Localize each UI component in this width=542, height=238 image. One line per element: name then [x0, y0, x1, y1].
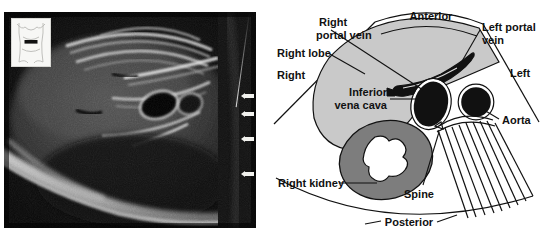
label-left-portal-vein-line2: vein: [482, 34, 504, 46]
ultrasound-panel: [4, 12, 256, 228]
label-inferior-vena-cava-line1: Inferior: [349, 86, 388, 98]
depth-tick-2: [245, 112, 254, 116]
label-orientation-left: Left: [510, 67, 531, 79]
aorta-shape: [458, 84, 494, 120]
label-right-portal-vein-line1: Right: [319, 16, 347, 28]
depth-tick-3: [245, 137, 254, 141]
label-orientation-right: Right: [277, 69, 305, 81]
ultrasound-scan-image: [4, 12, 256, 228]
label-orientation-anterior: Anterior: [410, 10, 454, 22]
figure-root: Right portal vein Right lobe Right Anter…: [0, 0, 542, 238]
diagram-panel: Right portal vein Right lobe Right Anter…: [271, 0, 542, 238]
label-right-lobe: Right lobe: [277, 47, 331, 59]
depth-tick-4: [245, 172, 254, 176]
label-left-portal-vein-line1: Left portal: [482, 21, 536, 33]
transducer-indicator-bar: [25, 40, 38, 44]
label-orientation-posterior: Posterior: [385, 216, 434, 228]
label-spine: Spine: [404, 188, 434, 200]
label-right-portal-vein-line2: portal vein: [316, 29, 372, 41]
body-marker-icon: [11, 18, 51, 67]
label-right-kidney: Right kidney: [278, 177, 345, 189]
label-aorta: Aorta: [502, 114, 532, 126]
depth-tick-1: [245, 94, 254, 98]
label-inferior-vena-cava-line2: vena cava: [334, 99, 387, 111]
